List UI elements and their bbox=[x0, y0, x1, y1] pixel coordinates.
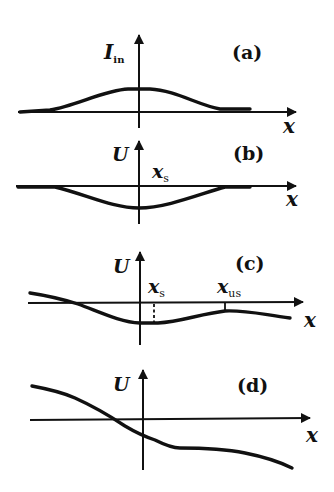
panel-label: (b) bbox=[233, 142, 264, 164]
panel-d: U (d) x bbox=[30, 370, 319, 470]
x-axis-label: x bbox=[305, 423, 319, 447]
panel-b: U (b) xs x bbox=[16, 141, 299, 224]
figure-canvas: Iin (a) x U (b) xs x U (c) xs xus x U (d… bbox=[0, 0, 334, 492]
panel-label: (a) bbox=[232, 41, 262, 63]
panel-a: Iin (a) x bbox=[18, 35, 296, 138]
x-axis-label: x bbox=[282, 114, 296, 138]
stable-point-label: xs bbox=[147, 275, 165, 300]
y-axis-label: Iin bbox=[103, 40, 125, 65]
y-axis-label: U bbox=[113, 373, 131, 395]
y-axis-label: U bbox=[112, 143, 130, 165]
unstable-point-label: xus bbox=[216, 275, 241, 300]
stable-point-label: xs bbox=[151, 160, 169, 185]
input-current-curve bbox=[20, 89, 250, 112]
x-axis-label: x bbox=[303, 308, 317, 332]
potential-curve bbox=[32, 386, 292, 468]
panel-c: U (c) xs xus x bbox=[28, 252, 317, 345]
panel-label: (d) bbox=[237, 374, 268, 396]
x-axis-label: x bbox=[285, 187, 299, 211]
potential-curve bbox=[18, 187, 250, 208]
x-axis-arrow-icon bbox=[30, 418, 310, 420]
y-axis-label: U bbox=[113, 255, 131, 277]
panel-label: (c) bbox=[235, 252, 265, 274]
